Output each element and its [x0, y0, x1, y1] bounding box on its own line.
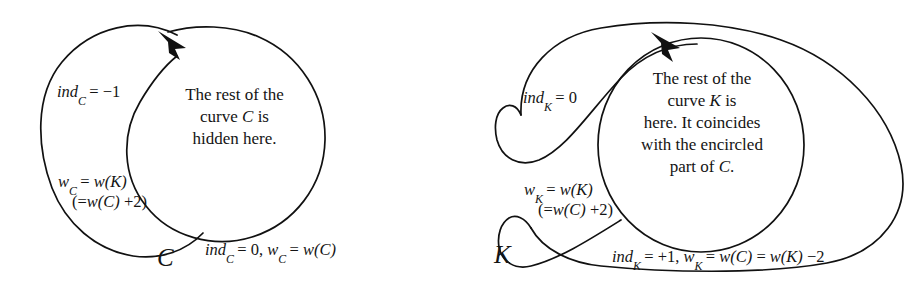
right-bottom-w-symbol: w	[684, 247, 695, 266]
left-w2-arg: (C)	[98, 192, 120, 211]
figure-root: indC = −1 wC = w(K) (=w(C) +2) C indC = …	[0, 0, 922, 288]
right-inner-line-3: here. It coincides	[604, 112, 800, 134]
right-w2-arg: (C)	[564, 200, 586, 219]
right-bottom-ind-value: = +1,	[644, 247, 683, 266]
left-inner-line-1: The rest of the	[152, 84, 317, 106]
left-inner-line-3: hidden here.	[152, 128, 317, 150]
lower-hook-path	[498, 216, 621, 267]
right-w-equals: =	[546, 180, 559, 199]
left-w-arg: (K)	[105, 172, 127, 191]
right-w2-func: w	[553, 200, 564, 219]
right-inner-line-5-pre: part of	[670, 157, 719, 176]
direction-arrowhead	[651, 32, 680, 62]
right-inner-line-5: part of C.	[604, 156, 800, 178]
right-w-func: w	[560, 180, 571, 199]
right-inner-line-2-post: is	[721, 91, 737, 110]
left-bottom-w-arg: (C)	[314, 240, 336, 259]
left-bottom-w-symbol: w	[267, 240, 278, 259]
left-bottom-ind-subscript: C	[226, 252, 234, 266]
right-inner-text-block: The rest of the curve K is here. It coin…	[604, 68, 800, 178]
left-w2-tail: +2)	[120, 192, 147, 211]
right-ind-subscript: K	[544, 100, 552, 114]
left-bottom-ind-value: = 0,	[237, 240, 267, 259]
right-ind-value: = 0	[555, 88, 577, 107]
right-bottom-equals-2: =	[752, 247, 770, 266]
right-bottom-w-subscript: K	[695, 259, 703, 273]
right-winding-outer-label: wK = w(K) (=w(C) +2)	[524, 180, 613, 220]
left-curve-name-label: C	[157, 243, 174, 274]
left-winding-outer-label: wC = w(K) (=w(C) +2)	[58, 172, 147, 212]
left-inner-curve-symbol: C	[242, 107, 253, 126]
left-w-subscript: C	[69, 184, 77, 198]
diagram-panel-left: indC = −1 wC = w(K) (=w(C) +2) C indC = …	[0, 0, 461, 288]
right-w-subscript: K	[535, 192, 543, 206]
right-inner-other-curve-symbol: C	[719, 157, 730, 176]
right-bottom-ind-symbol: ind	[612, 247, 633, 266]
left-bottom-w-equals: =	[290, 240, 303, 259]
right-index-outside-label: indK = +1, wK = w(C) = w(K) −2	[612, 247, 825, 267]
right-inner-line-2: curve K is	[604, 90, 800, 112]
left-ind-subscript: C	[78, 94, 86, 108]
right-curve-name-label: K	[494, 240, 511, 271]
right-w-arg: (K)	[571, 180, 593, 199]
right-inner-line-5-post: .	[730, 157, 734, 176]
right-inner-line-4: with the encircled	[604, 134, 800, 156]
left-w-equals: =	[80, 172, 93, 191]
left-inner-line-2-pre: curve	[200, 107, 242, 126]
left-bottom-w-func: w	[303, 240, 314, 259]
left-inner-line-2-post: is	[253, 107, 269, 126]
left-bottom-w-subscript: C	[278, 252, 286, 266]
left-index-outside-label: indC = 0, wC = w(C)	[205, 240, 336, 260]
right-bottom-tail: −2	[803, 247, 825, 266]
left-ind-symbol: ind	[57, 82, 78, 101]
left-winding-line1: wC = w(K)	[58, 172, 147, 192]
left-inner-text-block: The rest of the curve C is hidden here.	[152, 84, 317, 150]
left-w-func: w	[94, 172, 105, 191]
right-w2-tail: +2)	[586, 200, 613, 219]
left-w-symbol: w	[58, 172, 69, 191]
right-bottom-w-func-1: w	[719, 247, 730, 266]
right-bottom-ind-subscript: K	[633, 259, 641, 273]
right-inner-curve-symbol: K	[710, 91, 721, 110]
left-index-outer-label: indC = −1	[57, 82, 120, 102]
right-bottom-w-arg-1: (C)	[730, 247, 752, 266]
right-w-symbol: w	[524, 180, 535, 199]
diagram-panel-right: indK = 0 wK = w(K) (=w(C) +2) K indK = +…	[461, 0, 922, 288]
right-bottom-w-func-2: w	[770, 247, 781, 266]
left-inner-line-2: curve C is	[152, 106, 317, 128]
right-inner-line-1: The rest of the	[604, 68, 800, 90]
direction-arrowhead	[158, 31, 186, 60]
right-ind-symbol: ind	[523, 88, 544, 107]
left-bottom-ind-symbol: ind	[205, 240, 226, 259]
right-index-outer-label: indK = 0	[523, 88, 577, 108]
left-w2-func: w	[87, 192, 98, 211]
right-winding-line1: wK = w(K)	[524, 180, 613, 200]
left-ind-value: = −1	[89, 82, 120, 101]
right-bottom-w-arg-2: (K)	[781, 247, 803, 266]
right-inner-line-2-pre: curve	[668, 91, 710, 110]
right-bottom-w-equals: =	[706, 247, 719, 266]
